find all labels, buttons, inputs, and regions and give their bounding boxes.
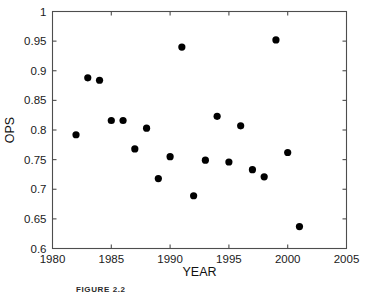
data-point [72, 131, 79, 138]
data-point [190, 192, 197, 199]
x-axis-tick-label: 1985 [99, 253, 125, 265]
data-point [202, 157, 209, 164]
x-axis-title: YEAR [182, 265, 216, 279]
x-axis-tick-label: 2005 [334, 253, 360, 265]
y-axis-tick-label: 0.8 [31, 124, 47, 136]
y-axis-tick-label: 0.6 [31, 243, 47, 255]
data-point [155, 175, 162, 182]
data-point [167, 153, 174, 160]
data-point [249, 166, 256, 173]
data-point [272, 36, 279, 43]
y-axis-tick-label: 0.9 [31, 65, 47, 77]
data-point [284, 149, 291, 156]
data-point [237, 122, 244, 129]
data-point [296, 223, 303, 230]
data-point [214, 113, 221, 120]
x-axis-tick-label: 2000 [275, 253, 301, 265]
y-axis-tick-label: 1 [40, 6, 46, 18]
data-point [108, 117, 115, 124]
data-point [143, 125, 150, 132]
data-point [84, 74, 91, 81]
data-point [131, 145, 138, 152]
y-axis-title: OPS [3, 117, 17, 143]
data-point [225, 158, 232, 165]
y-axis-tick-label: 0.85 [24, 94, 46, 106]
y-axis-tick-label: 0.95 [24, 35, 46, 47]
data-point [178, 43, 185, 50]
data-point [119, 117, 126, 124]
x-axis-tick-label: 1990 [157, 253, 183, 265]
y-axis-tick-label: 0.7 [31, 183, 47, 195]
plot-frame [53, 12, 347, 249]
y-axis-tick-label: 0.65 [24, 213, 46, 225]
y-axis-tick-label: 0.75 [24, 154, 46, 166]
data-point [96, 77, 103, 84]
data-point [261, 173, 268, 180]
scatter-plot: 1980198519901995200020050.60.650.70.750.… [0, 0, 366, 295]
x-axis-tick-label: 1995 [216, 253, 242, 265]
figure-caption: FIGURE 2.2 [76, 285, 126, 294]
figure-container: 1980198519901995200020050.60.650.70.750.… [0, 0, 366, 295]
